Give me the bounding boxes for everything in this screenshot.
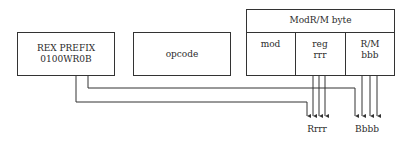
bbbb-label: Bbbb [355,124,379,134]
connector-wires [0,0,405,143]
rex-b-wire [88,76,355,116]
rex-r-wire [76,76,307,116]
rex-modrm-diagram: REX PREFIX 0100WR0B opcode ModR/M byte m… [0,0,405,143]
rrrr-label: Rrrr [307,124,327,134]
